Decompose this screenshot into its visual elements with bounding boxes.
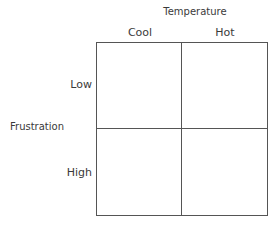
row-label-low: Low <box>70 78 92 91</box>
column-label-cool: Cool <box>97 26 183 39</box>
matrix-grid <box>96 42 268 216</box>
row-label-high: High <box>67 166 92 179</box>
column-axis-title: Temperature <box>155 6 235 17</box>
vertical-divider <box>181 43 182 215</box>
column-label-hot: Hot <box>182 26 268 39</box>
horizontal-divider <box>97 128 267 129</box>
row-axis-title: Frustration <box>10 121 64 132</box>
